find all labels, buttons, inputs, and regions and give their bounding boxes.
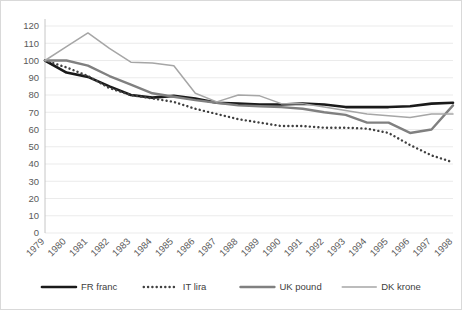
legend-item-fr-franc[interactable]: FR franc	[42, 281, 118, 292]
series-line-fr-franc	[45, 61, 453, 108]
y-tick-label: 110	[24, 38, 39, 49]
legend-label: UK pound	[279, 281, 321, 292]
y-tick-label: 30	[28, 176, 39, 187]
y-tick-label: 80	[28, 89, 39, 100]
data-series	[45, 33, 453, 162]
legend-item-uk-pound[interactable]: UK pound	[240, 281, 321, 292]
x-tick-label-1990: 1990	[260, 236, 283, 259]
x-tick-label-1996: 1996	[389, 236, 412, 259]
y-axis-tick-labels: 0102030405060708090100110120	[23, 20, 39, 238]
y-tick-label: 70	[28, 107, 39, 118]
legend-label: DK krone	[381, 281, 421, 292]
x-tick-label-1982: 1982	[88, 236, 111, 259]
chart-legend: FR francIT liraUK poundDK krone	[42, 281, 421, 292]
x-tick-label-1988: 1988	[217, 236, 240, 259]
legend-item-it-lira[interactable]: IT lira	[144, 281, 207, 292]
x-tick-label-1993: 1993	[324, 236, 347, 259]
x-tick-label-1998: 1998	[432, 236, 455, 259]
x-tick-label-1981: 1981	[67, 236, 90, 259]
series-line-uk-pound	[45, 61, 453, 133]
x-tick-label-1980: 1980	[45, 236, 68, 259]
y-tick-label: 60	[28, 124, 39, 135]
x-tick-label-1992: 1992	[303, 236, 326, 259]
y-tick-label: 90	[28, 72, 39, 83]
x-tick-label-1985: 1985	[153, 236, 176, 259]
x-axis-tick-labels: 1979198019811982198319841985198619871988…	[24, 236, 455, 259]
gridlines	[45, 19, 453, 233]
y-tick-label: 120	[23, 20, 39, 31]
x-tick-label-1997: 1997	[410, 236, 433, 259]
x-tick-label-1994: 1994	[346, 236, 369, 259]
y-tick-label: 20	[28, 193, 39, 204]
x-tick-label-1979: 1979	[24, 236, 47, 259]
legend-label: IT lira	[183, 281, 207, 292]
x-tick-label-1984: 1984	[131, 236, 154, 259]
x-tick-label-1983: 1983	[110, 236, 133, 259]
y-tick-label: 100	[23, 55, 39, 66]
y-tick-label: 40	[28, 158, 39, 169]
x-tick-label-1991: 1991	[281, 236, 304, 259]
legend-label: FR franc	[81, 281, 118, 292]
legend-item-dk-krone[interactable]: DK krone	[342, 281, 421, 292]
chart-plot-area: 0102030405060708090100110120 19791980198…	[1, 1, 462, 310]
y-tick-label: 10	[28, 210, 39, 221]
x-tick-label-1995: 1995	[367, 236, 390, 259]
y-tick-label: 50	[28, 141, 39, 152]
x-tick-label-1987: 1987	[195, 236, 218, 259]
x-tick-label-1989: 1989	[238, 236, 261, 259]
line-chart-container: 0102030405060708090100110120 19791980198…	[0, 0, 462, 310]
x-tick-label-1986: 1986	[174, 236, 197, 259]
